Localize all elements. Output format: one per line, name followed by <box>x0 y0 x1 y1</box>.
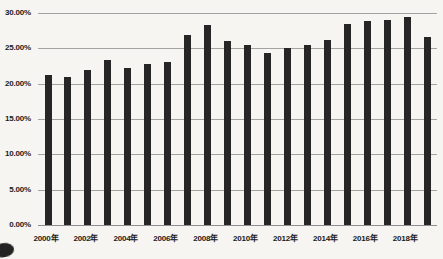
y-axis-tick-label: 30.00% <box>0 8 31 18</box>
y-axis-tick-label: 0.00% <box>0 220 31 230</box>
y-axis-tick-label: 15.00% <box>0 114 31 124</box>
x-axis-tick-label: 2014年 <box>313 234 338 244</box>
x-axis-tick-label: 2004年 <box>113 234 138 244</box>
bar-2004年 <box>124 68 131 225</box>
x-axis-tick-label: 2016年 <box>353 234 378 244</box>
bar-2011年 <box>264 53 271 225</box>
y-axis-tick-label: 25.00% <box>0 43 31 53</box>
bar-2008年 <box>204 25 211 225</box>
x-axis-tick-label: 2006年 <box>153 234 178 244</box>
x-axis-tick-label: 2012年 <box>273 234 298 244</box>
x-axis-tick-label: 2010年 <box>233 234 258 244</box>
gridline <box>38 13 437 14</box>
bar-2019年 <box>424 37 431 225</box>
bar-2001年 <box>64 77 71 225</box>
bar-2000年 <box>45 75 52 225</box>
y-axis-tick-label: 10.00% <box>0 149 31 159</box>
gridline <box>38 119 437 120</box>
bar-2017年 <box>384 20 391 225</box>
bar-2005年 <box>144 64 151 225</box>
bar-2018年 <box>404 17 411 226</box>
x-axis-tick-label: 2000年 <box>34 234 59 244</box>
x-axis-tick-label: 2008年 <box>193 234 218 244</box>
bar-2009年 <box>224 41 231 225</box>
gridline <box>38 154 437 155</box>
bar-2012年 <box>284 48 291 225</box>
y-axis-tick-label: 20.00% <box>0 79 31 89</box>
x-axis-tick-label: 2002年 <box>73 234 98 244</box>
bar-2014年 <box>324 40 331 225</box>
bar-2010年 <box>244 45 251 225</box>
bar-2003年 <box>104 60 111 225</box>
gridline <box>38 48 437 49</box>
bar-2013年 <box>304 45 311 225</box>
y-axis-tick-label: 5.00% <box>0 185 31 195</box>
gridline <box>38 190 437 191</box>
x-axis-tick-label: 2018年 <box>393 234 418 244</box>
gridline <box>38 84 437 85</box>
bar-2007年 <box>184 35 191 225</box>
y-axis: 30.00%25.00%20.00%15.00%10.00%5.00%0.00% <box>0 0 33 254</box>
bar-2015年 <box>344 24 351 225</box>
bar-2002年 <box>84 70 91 226</box>
bar-2006年 <box>164 62 171 225</box>
bar-2016年 <box>364 21 371 225</box>
plot-area <box>38 13 437 226</box>
